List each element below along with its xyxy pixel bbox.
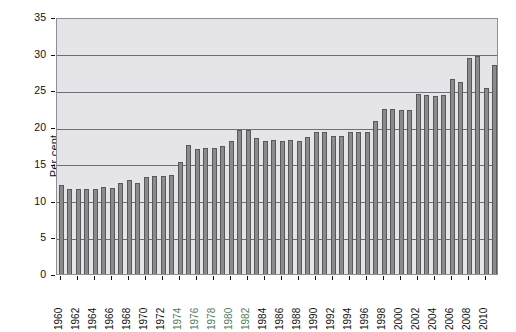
bar <box>382 109 387 274</box>
x-tick-label: 1998 <box>377 308 387 330</box>
x-tick-label: 1980 <box>224 308 234 330</box>
bar <box>144 177 149 274</box>
x-tick-label: 1972 <box>156 308 166 330</box>
bar <box>475 56 480 274</box>
bar <box>314 132 319 274</box>
bar <box>76 189 81 274</box>
bar <box>331 136 336 274</box>
x-tick-label: 1960 <box>54 308 64 330</box>
x-tick-mark <box>366 276 367 280</box>
bar <box>84 189 89 274</box>
x-tick-label: 1994 <box>343 308 353 330</box>
bar <box>492 65 497 274</box>
bar <box>467 58 472 274</box>
y-tick-label: 10 <box>12 196 46 207</box>
x-tick-label: 1986 <box>275 308 285 330</box>
bar <box>424 95 429 274</box>
bar <box>203 148 208 274</box>
y-tick-mark <box>51 165 55 166</box>
x-tick-mark <box>111 276 112 280</box>
x-tick-mark <box>383 276 384 280</box>
y-tick-label: 30 <box>12 49 46 60</box>
x-tick-mark <box>298 276 299 280</box>
bar-chart-figure: Per cent 05101520253035 1960196219641966… <box>0 0 516 332</box>
bar <box>152 176 157 274</box>
y-tick-label: 0 <box>12 269 46 280</box>
plot-area <box>56 18 498 275</box>
y-tick-mark <box>51 91 55 92</box>
y-tick-mark <box>51 55 55 56</box>
x-tick-mark <box>247 276 248 280</box>
x-tick-mark <box>315 276 316 280</box>
x-tick-label: 1978 <box>207 308 217 330</box>
y-tick-mark <box>51 202 55 203</box>
x-tick-label: 2008 <box>462 308 472 330</box>
x-tick-mark <box>128 276 129 280</box>
bar <box>195 149 200 274</box>
bar <box>59 185 64 274</box>
x-tick-label: 1962 <box>71 308 81 330</box>
x-tick-mark <box>400 276 401 280</box>
x-tick-mark <box>332 276 333 280</box>
bar <box>178 162 183 274</box>
x-tick-mark <box>451 276 452 280</box>
y-tick-mark <box>51 128 55 129</box>
y-tick-label: 20 <box>12 122 46 133</box>
bar <box>305 137 310 274</box>
x-tick-mark <box>417 276 418 280</box>
bar <box>161 176 166 274</box>
y-tick-mark <box>51 18 55 19</box>
x-tick-mark <box>179 276 180 280</box>
x-tick-mark <box>468 276 469 280</box>
y-tick-label: 25 <box>12 85 46 96</box>
bar <box>280 141 285 274</box>
bar <box>67 189 72 274</box>
x-tick-mark <box>349 276 350 280</box>
x-tick-label: 1982 <box>241 308 251 330</box>
x-tick-mark <box>213 276 214 280</box>
bar <box>297 141 302 274</box>
x-tick-label: 1970 <box>139 308 149 330</box>
bar <box>246 130 251 274</box>
bar <box>127 180 132 274</box>
y-tick-label: 15 <box>12 159 46 170</box>
bar <box>212 148 217 274</box>
bar <box>365 132 370 274</box>
x-tick-mark <box>162 276 163 280</box>
x-tick-label: 1992 <box>326 308 336 330</box>
x-tick-mark <box>145 276 146 280</box>
bar <box>450 79 455 274</box>
bar <box>110 188 115 274</box>
bar <box>288 140 293 274</box>
x-tick-label: 1964 <box>88 308 98 330</box>
x-tick-label: 2002 <box>411 308 421 330</box>
x-tick-label: 1976 <box>190 308 200 330</box>
x-tick-label: 1974 <box>173 308 183 330</box>
bar <box>101 187 106 274</box>
bar <box>399 110 404 274</box>
x-tick-label: 1990 <box>309 308 319 330</box>
x-tick-mark <box>196 276 197 280</box>
y-tick-label: 35 <box>12 12 46 23</box>
bar <box>339 136 344 274</box>
bar <box>348 132 353 274</box>
bar <box>169 175 174 274</box>
bar <box>254 138 259 274</box>
x-tick-label: 1966 <box>105 308 115 330</box>
bar <box>433 96 438 274</box>
x-tick-label: 2010 <box>479 308 489 330</box>
x-tick-mark <box>60 276 61 280</box>
y-tick-label: 5 <box>12 232 46 243</box>
bar <box>135 183 140 274</box>
x-tick-label: 2004 <box>428 308 438 330</box>
bar <box>271 140 276 274</box>
bar-series <box>57 19 497 274</box>
x-tick-mark <box>230 276 231 280</box>
x-tick-label: 1988 <box>292 308 302 330</box>
x-tick-mark <box>264 276 265 280</box>
x-tick-mark <box>94 276 95 280</box>
x-tick-mark <box>485 276 486 280</box>
bar <box>220 146 225 274</box>
bar <box>390 109 395 274</box>
x-tick-mark <box>77 276 78 280</box>
